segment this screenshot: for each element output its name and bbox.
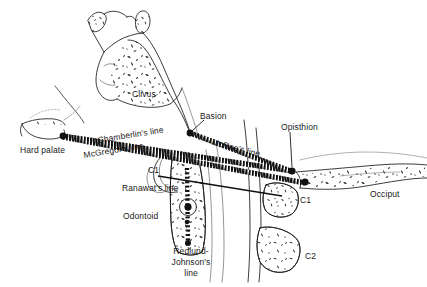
craniocervical-junction-diagram: Clivus Basion Opisthion Hard palate Cham… [0,0,427,287]
label-basion: Basion [200,112,227,122]
label-redlund-johnson-line-row1: Redlund- [160,247,222,257]
occiput-outline [296,164,427,189]
label-clivus: Clivus [132,90,156,100]
c2-body [257,227,300,272]
label-c1-right: C1 [300,196,311,206]
label-ranawat-line: Ranawat's line [122,184,178,194]
label-occiput: Occiput [370,190,400,200]
label-hard-palate: Hard palate [20,146,65,156]
label-c2: C2 [305,252,316,262]
label-c1-left: C1 [148,166,159,176]
label-redlund-johnson-line-row3: line [160,269,222,279]
label-opisthion: Opisthion [281,123,318,133]
label-redlund-johnson-line-row2: Johnson's [160,258,222,268]
hard-palate-outline [21,86,85,139]
label-odontoid: Odontoid [123,212,158,222]
skull-base-clivus-outline [88,11,199,140]
c1-right-lateral-mass [263,183,298,217]
